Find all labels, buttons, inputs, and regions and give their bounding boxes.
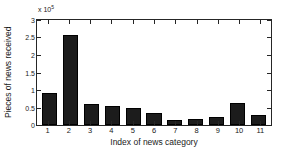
x-axis-tick-top (154, 20, 155, 24)
x-axis-tick (154, 121, 155, 125)
bar-slot (248, 20, 269, 125)
bar-slot (102, 20, 123, 125)
x-axis-tick (90, 121, 91, 125)
y-axis-tick (37, 73, 41, 74)
y-axis-tick (37, 125, 41, 126)
x-axis-tick (239, 121, 240, 125)
x-axis-tick (260, 121, 261, 125)
x-axis-tick-top (90, 20, 91, 24)
x-axis-tick-top (239, 20, 240, 24)
bar-slot (60, 20, 81, 125)
bar-slot (123, 20, 144, 125)
bar-10[interactable] (230, 103, 245, 125)
x-axis-tick (111, 121, 112, 125)
x-axis-tick-top (133, 20, 134, 24)
y-axis-tick (37, 55, 41, 56)
x-axis-tick-label: 11 (256, 127, 264, 135)
y-axis-tick-right (267, 55, 271, 56)
x-axis-tick-label: 9 (216, 127, 220, 135)
y-axis-tick-label: 0 (31, 122, 35, 129)
bar-slot (144, 20, 165, 125)
y-axis-multiplier-base: x 10 (38, 6, 51, 13)
y-axis-tick-label: 0.5 (25, 104, 35, 111)
x-axis-tick-label: 4 (109, 127, 113, 135)
bar-series (37, 20, 271, 125)
y-axis-multiplier-exponent: 5 (51, 4, 54, 10)
y-axis-tick (37, 108, 41, 109)
x-axis-tick (175, 121, 176, 125)
x-axis-tick-label: 6 (152, 127, 156, 135)
y-axis-tick-label: 2.5 (25, 34, 35, 41)
x-axis-tick-label: 1 (46, 127, 50, 135)
x-axis-tick-top (260, 20, 261, 24)
x-axis-tick-label: 7 (173, 127, 177, 135)
y-axis-tick-label: 1 (31, 86, 35, 93)
x-axis-title: Index of news category (36, 138, 272, 147)
bar-slot (185, 20, 206, 125)
bar-chart-figure: x 105 00.511.522.531234567891011 Index o… (0, 0, 288, 155)
x-axis-tick-label: 8 (194, 127, 198, 135)
x-axis-tick-label: 3 (88, 127, 92, 135)
x-axis-tick-top (111, 20, 112, 24)
y-axis-tick (37, 90, 41, 91)
bar-slot (39, 20, 60, 125)
x-axis-tick-top (48, 20, 49, 24)
x-axis-tick (69, 121, 70, 125)
x-axis-tick-top (69, 20, 70, 24)
x-axis-tick-label: 5 (131, 127, 135, 135)
bar-3[interactable] (84, 104, 99, 125)
x-axis-tick-top (218, 20, 219, 24)
y-axis-tick (37, 20, 41, 21)
x-axis-tick-label: 2 (67, 127, 71, 135)
y-axis-tick-right (267, 90, 271, 91)
y-axis-tick-label: 1.5 (25, 69, 35, 76)
y-axis-title: Pieces of news received (2, 19, 13, 126)
y-axis-tick-right (267, 20, 271, 21)
plot-area: 00.511.522.531234567891011 (36, 19, 272, 126)
bar-slot (81, 20, 102, 125)
x-axis-tick-top (197, 20, 198, 24)
bar-11[interactable] (251, 115, 266, 125)
bar-9[interactable] (209, 117, 224, 125)
y-axis-tick-right (267, 37, 271, 38)
x-axis-tick (218, 121, 219, 125)
x-axis-tick-label: 10 (235, 127, 243, 135)
x-axis-tick (133, 121, 134, 125)
x-axis-tick (197, 121, 198, 125)
y-axis-tick (37, 37, 41, 38)
bar-2[interactable] (63, 35, 78, 125)
bar-slot (164, 20, 185, 125)
y-axis-tick-right (267, 73, 271, 74)
y-axis-tick-right (267, 125, 271, 126)
x-axis-tick-top (175, 20, 176, 24)
y-axis-tick-label: 2 (31, 51, 35, 58)
x-axis-tick (48, 121, 49, 125)
bar-1[interactable] (42, 93, 57, 125)
y-axis-multiplier-label: x 105 (38, 5, 54, 13)
bar-slot (206, 20, 227, 125)
y-axis-tick-label: 3 (31, 17, 35, 24)
y-axis-tick-right (267, 108, 271, 109)
bar-slot (227, 20, 248, 125)
y-axis-title-text: Pieces of news received (3, 27, 12, 119)
